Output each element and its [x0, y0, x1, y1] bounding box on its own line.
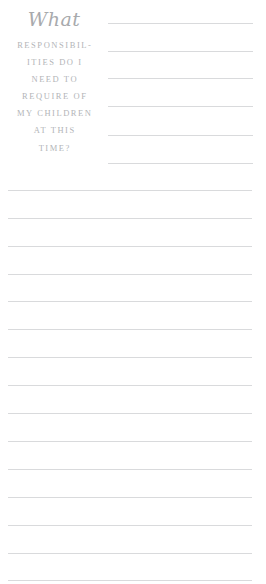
journal-page: What RESPONSIBIL- ITIES DO I NEED TO REQ… [0, 0, 266, 584]
writing-rule-short[interactable] [108, 106, 253, 107]
writing-rule-full[interactable] [8, 357, 252, 358]
writing-rule-short[interactable] [108, 163, 253, 164]
writing-rule-full[interactable] [8, 413, 252, 414]
prompt-caps-line: TIME? [0, 144, 108, 153]
writing-rule-full[interactable] [8, 274, 252, 275]
prompt-caps-line: NEED TO [0, 75, 108, 84]
prompt-caps-line: REQUIRE OF [0, 92, 108, 101]
writing-rule-full[interactable] [8, 385, 252, 386]
prompt-caps-line: ITIES DO I [0, 58, 108, 67]
writing-rule-full[interactable] [8, 301, 252, 302]
writing-rule-full[interactable] [8, 553, 252, 554]
writing-rule-full[interactable] [8, 246, 252, 247]
writing-rule-full[interactable] [8, 469, 252, 470]
writing-rule-full[interactable] [8, 580, 252, 581]
writing-rule-full[interactable] [8, 525, 252, 526]
writing-rule-full[interactable] [8, 218, 252, 219]
writing-rule-full[interactable] [8, 329, 252, 330]
prompt-script-word: What [0, 0, 108, 29]
writing-rule-short[interactable] [108, 135, 253, 136]
writing-rule-full[interactable] [8, 441, 252, 442]
prompt-caps-block: RESPONSIBIL- ITIES DO I NEED TO REQUIRE … [0, 41, 108, 152]
prompt-caps-line: RESPONSIBIL- [0, 41, 108, 50]
writing-rule-short[interactable] [108, 51, 253, 52]
writing-rule-short[interactable] [108, 23, 253, 24]
prompt-caps-line: MY CHILDREN [0, 109, 108, 118]
prompt-caps-line: AT THIS [0, 126, 108, 135]
writing-rule-short[interactable] [108, 78, 253, 79]
writing-rule-full[interactable] [8, 497, 252, 498]
writing-rule-full[interactable] [8, 190, 252, 191]
prompt-block: What RESPONSIBIL- ITIES DO I NEED TO REQ… [0, 0, 108, 152]
